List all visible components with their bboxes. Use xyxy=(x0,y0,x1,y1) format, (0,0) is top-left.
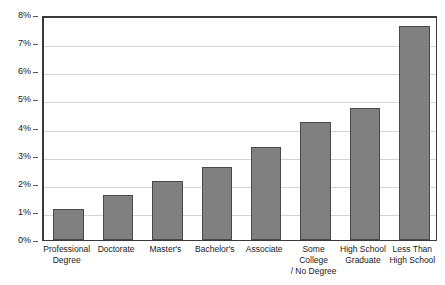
y-tick-mark xyxy=(33,129,38,130)
bar xyxy=(202,167,233,240)
y-tick-mark xyxy=(33,185,38,186)
bar xyxy=(103,195,134,240)
y-tick-label: 0% xyxy=(18,236,31,245)
y-tick-label: 6% xyxy=(18,67,31,76)
y-tick-label: 5% xyxy=(18,95,31,104)
y-tick-mark xyxy=(33,100,38,101)
plot-area xyxy=(42,16,437,241)
x-category-label: Associate xyxy=(240,244,289,255)
x-category-label: Doctorate xyxy=(91,244,140,255)
y-tick-label: 7% xyxy=(18,39,31,48)
bar xyxy=(399,26,430,240)
y-tick-mark xyxy=(33,72,38,73)
bar xyxy=(300,122,331,240)
x-category-label: Bachelor's xyxy=(190,244,239,255)
bar xyxy=(251,147,282,240)
y-tick-mark xyxy=(33,213,38,214)
x-category-label: Professional Degree xyxy=(42,244,91,266)
y-tick-mark xyxy=(33,157,38,158)
y-tick-label: 8% xyxy=(18,11,31,20)
bars-layer xyxy=(44,18,436,240)
bar xyxy=(53,209,84,240)
bar xyxy=(350,108,381,240)
x-axis: Professional DegreeDoctorateMaster'sBach… xyxy=(42,244,437,285)
y-tick-mark xyxy=(33,44,38,45)
y-tick-label: 4% xyxy=(18,124,31,133)
y-tick-mark xyxy=(33,241,38,242)
y-axis: 0%1%2%3%4%5%6%7%8% xyxy=(0,0,37,285)
bar-chart: 0%1%2%3%4%5%6%7%8% Professional DegreeDo… xyxy=(0,0,445,285)
x-category-label: Master's xyxy=(141,244,190,255)
y-tick-label: 2% xyxy=(18,180,31,189)
x-category-label: High School Graduate xyxy=(338,244,387,266)
y-tick-label: 1% xyxy=(18,208,31,217)
y-tick-label: 3% xyxy=(18,152,31,161)
x-category-label: Less Than High School xyxy=(388,244,437,266)
y-tick-mark xyxy=(33,16,38,17)
bar xyxy=(152,181,183,240)
x-category-label: Some College / No Degree xyxy=(289,244,338,277)
